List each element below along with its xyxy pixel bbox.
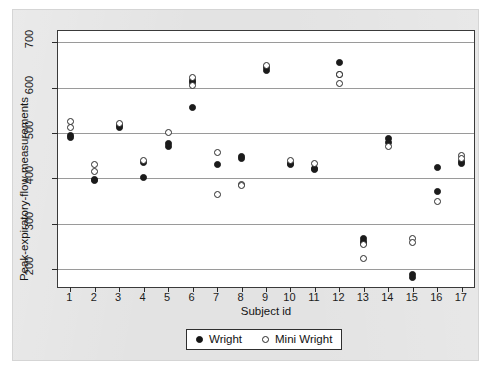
data-point-wright xyxy=(409,274,416,281)
y-axis-tick-label: 600 xyxy=(23,68,35,102)
gridline xyxy=(58,88,474,89)
x-axis-title: Subject id xyxy=(57,305,475,317)
data-point-wright xyxy=(336,59,343,66)
figure-canvas: Peak-expiratory-flow measurements Subjec… xyxy=(0,0,493,374)
gridline xyxy=(58,224,474,225)
x-axis-tick-label: 13 xyxy=(352,291,374,303)
data-point-mini xyxy=(263,62,270,69)
y-axis-tick-label: 500 xyxy=(23,113,35,147)
y-axis-tick-label: 700 xyxy=(23,22,35,56)
data-point-wright xyxy=(214,161,221,168)
data-point-mini xyxy=(287,157,294,164)
data-point-mini xyxy=(140,157,147,164)
x-axis-tick-label: 3 xyxy=(107,291,129,303)
x-axis-tick-label: 9 xyxy=(254,291,276,303)
x-axis-tick-label: 11 xyxy=(303,291,325,303)
data-point-mini xyxy=(360,255,367,262)
x-axis-tick-label: 4 xyxy=(132,291,154,303)
x-axis-tick-label: 10 xyxy=(278,291,300,303)
legend-label-wright: Wright xyxy=(209,333,242,345)
data-point-mini xyxy=(67,124,74,131)
y-axis-tick xyxy=(52,269,58,270)
legend: Wright Mini Wright xyxy=(186,329,342,350)
y-axis-tick-label: 300 xyxy=(23,204,35,238)
data-point-mini xyxy=(336,80,343,87)
gridline xyxy=(58,269,474,270)
data-point-wright xyxy=(238,155,245,162)
gridline xyxy=(58,178,474,179)
data-point-mini xyxy=(165,129,172,136)
legend-entry-wright: Wright xyxy=(196,333,242,345)
y-axis-tick xyxy=(52,178,58,179)
plot-area xyxy=(57,30,475,288)
x-axis-tick-label: 5 xyxy=(156,291,178,303)
y-axis-tick-label: 200 xyxy=(23,249,35,283)
x-axis-tick-label: 16 xyxy=(425,291,447,303)
x-axis-tick-label: 17 xyxy=(450,291,472,303)
legend-label-mini-wright: Mini Wright xyxy=(275,333,332,345)
y-axis-tick xyxy=(52,88,58,89)
data-point-mini xyxy=(214,191,221,198)
data-point-mini xyxy=(385,143,392,150)
gridline xyxy=(58,133,474,134)
data-point-wright xyxy=(434,164,441,171)
x-axis-tick-label: 6 xyxy=(181,291,203,303)
y-axis-tick-label: 400 xyxy=(23,158,35,192)
data-point-mini xyxy=(336,71,343,78)
data-point-wright xyxy=(165,143,172,150)
data-point-wright xyxy=(189,104,196,111)
data-point-mini xyxy=(67,118,74,125)
data-point-wright xyxy=(140,174,147,181)
x-axis-tick-label: 15 xyxy=(401,291,423,303)
x-axis-tick-label: 8 xyxy=(230,291,252,303)
gridline xyxy=(58,42,474,43)
y-axis-tick xyxy=(52,42,58,43)
data-point-mini xyxy=(214,149,221,156)
legend-entry-mini-wright: Mini Wright xyxy=(262,333,332,345)
data-point-wright xyxy=(311,166,318,173)
x-axis-tick-label: 7 xyxy=(205,291,227,303)
data-point-mini xyxy=(409,239,416,246)
data-point-wright xyxy=(434,188,441,195)
data-point-mini xyxy=(238,182,245,189)
data-point-mini xyxy=(434,198,441,205)
open-circle-icon xyxy=(262,336,269,343)
data-point-mini xyxy=(91,168,98,175)
y-axis-tick xyxy=(52,224,58,225)
x-axis-tick-label: 12 xyxy=(327,291,349,303)
filled-circle-icon xyxy=(196,336,203,343)
x-axis-tick-label: 2 xyxy=(83,291,105,303)
x-axis-tick-label: 1 xyxy=(58,291,80,303)
y-axis-tick xyxy=(52,133,58,134)
data-point-mini xyxy=(360,241,367,248)
data-point-wright xyxy=(67,134,74,141)
data-point-mini xyxy=(91,161,98,168)
x-axis-tick-label: 14 xyxy=(376,291,398,303)
